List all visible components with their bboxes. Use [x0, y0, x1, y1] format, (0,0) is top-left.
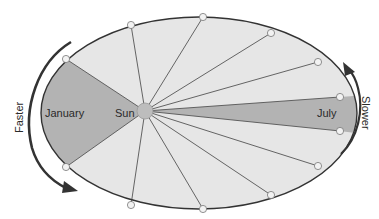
faster-label: Faster — [13, 101, 25, 133]
position-marker — [127, 201, 134, 208]
january-label: January — [45, 107, 85, 119]
faster-arrowhead-icon — [62, 181, 78, 193]
position-marker — [62, 55, 69, 62]
position-marker — [336, 127, 343, 134]
position-marker — [267, 191, 274, 198]
position-marker — [199, 205, 206, 212]
kepler-orbit-diagram: January Sun July Faster Slower — [0, 0, 379, 219]
sun-label: Sun — [115, 107, 135, 119]
position-marker — [199, 13, 206, 20]
position-marker — [314, 162, 321, 169]
sun-icon — [137, 103, 153, 119]
position-marker — [127, 21, 134, 28]
july-label: July — [317, 107, 337, 119]
position-marker — [267, 29, 274, 36]
position-marker — [314, 58, 321, 65]
position-marker — [62, 163, 69, 170]
slower-label: Slower — [360, 96, 372, 130]
position-marker — [336, 93, 343, 100]
